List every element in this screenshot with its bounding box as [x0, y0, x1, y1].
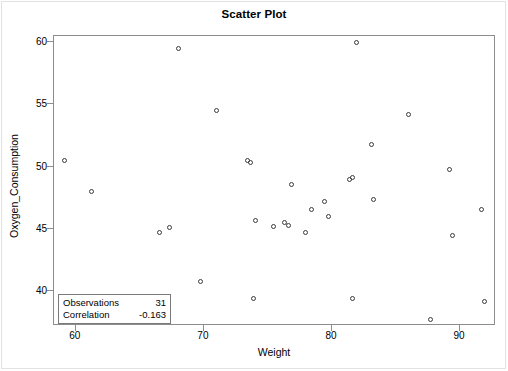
- scatter-point: [157, 230, 162, 235]
- y-axis-tick-mark: [47, 103, 53, 104]
- stats-value: 31: [145, 297, 166, 309]
- scatter-point: [482, 299, 487, 304]
- y-axis-title: Oxygen_Consumption: [8, 86, 20, 286]
- y-axis-tick-mark: [47, 166, 53, 167]
- scatter-point: [214, 108, 219, 113]
- stats-value: -0.163: [129, 309, 166, 321]
- scatter-point: [253, 218, 258, 223]
- y-axis-tick-label: 60: [25, 36, 47, 47]
- page-title: Scatter Plot: [0, 8, 508, 20]
- scatter-point: [350, 296, 355, 301]
- y-axis-tick-mark: [47, 41, 53, 42]
- scatter-point: [62, 158, 67, 163]
- stats-inset-box: Observations31Correlation-0.163: [58, 294, 171, 324]
- y-axis-tick-label: 55: [25, 98, 47, 109]
- scatter-point: [428, 317, 433, 322]
- scatter-point: [176, 46, 181, 51]
- x-axis-title: Weight: [53, 346, 495, 358]
- y-axis-tick-label: 40: [25, 285, 47, 296]
- y-axis-tick-mark: [47, 228, 53, 229]
- scatter-point: [289, 182, 294, 187]
- scatter-point: [89, 189, 94, 194]
- scatter-point: [326, 214, 331, 219]
- scatter-point: [303, 230, 308, 235]
- scatter-point: [198, 279, 203, 284]
- scatter-point: [479, 207, 484, 212]
- scatter-point: [371, 197, 376, 202]
- x-axis-tick-label: 90: [444, 330, 474, 341]
- x-axis-tick-label: 60: [60, 330, 90, 341]
- scatter-plot-page: Scatter Plot Oxygen_Consumption Weight O…: [0, 0, 508, 371]
- scatter-point: [450, 233, 455, 238]
- scatter-point: [248, 160, 253, 165]
- y-axis-tick-label: 50: [25, 160, 47, 171]
- scatter-point: [350, 175, 355, 180]
- scatter-point: [369, 142, 374, 147]
- scatter-point: [354, 40, 359, 45]
- stats-row: Observations31: [63, 297, 166, 309]
- scatter-point: [309, 207, 314, 212]
- y-axis-tick-label: 45: [25, 222, 47, 233]
- scatter-point: [167, 225, 172, 230]
- stats-row: Correlation-0.163: [63, 309, 166, 321]
- scatter-point: [406, 112, 411, 117]
- scatter-point: [322, 199, 327, 204]
- scatter-point: [286, 223, 291, 228]
- x-axis-tick-label: 80: [316, 330, 346, 341]
- scatter-points-layer: [54, 36, 494, 324]
- x-axis-tick-label: 70: [188, 330, 218, 341]
- scatter-point: [447, 167, 452, 172]
- y-axis-tick-mark: [47, 290, 53, 291]
- scatter-point: [271, 224, 276, 229]
- stats-label: Correlation: [63, 309, 109, 321]
- stats-label: Observations: [63, 297, 119, 309]
- scatter-point: [251, 296, 256, 301]
- plot-area: [53, 35, 495, 325]
